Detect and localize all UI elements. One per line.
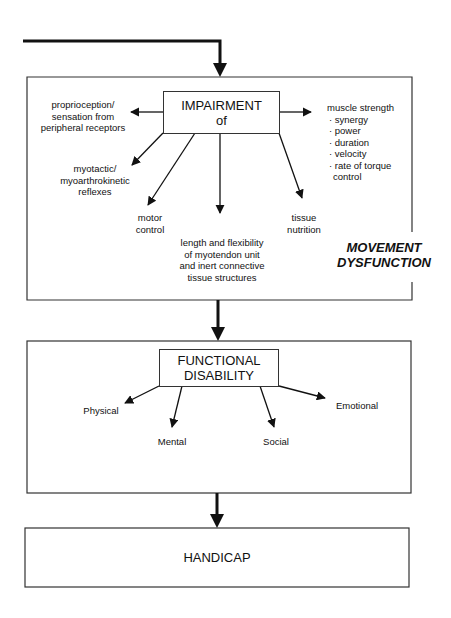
label-line: peripheral receptors xyxy=(34,122,132,134)
label-muscle-strength: muscle strength · synergy · power · dura… xyxy=(327,102,412,183)
muscle-strength-item: · rate of torque xyxy=(327,160,412,172)
label-line: proprioception/ xyxy=(34,99,132,111)
impairment-box: IMPAIRMENT of xyxy=(163,91,280,134)
label-line: DYSFUNCTION xyxy=(332,255,436,270)
label-mental: Mental xyxy=(152,436,192,448)
label-emotional: Emotional xyxy=(332,400,382,412)
label-line: control xyxy=(130,224,170,236)
label-tissue-nutrition: tissue nutrition xyxy=(284,212,324,235)
label-line: tissue structures xyxy=(175,272,269,284)
muscle-strength-item: · velocity xyxy=(327,148,412,160)
label-social: Social xyxy=(256,436,296,448)
label-line: MOVEMENT xyxy=(332,240,436,255)
label-reflexes: myotactic/ myoarthrokinetic reflexes xyxy=(55,163,135,198)
flow-arrow-to-handicap xyxy=(210,493,224,528)
incoming-flow-arrow xyxy=(23,41,227,77)
impairment-subtitle: of xyxy=(164,113,279,128)
functional-disability-box: FUNCTIONAL DISABILITY xyxy=(159,349,279,387)
label-length-flexibility: length and flexibility of myotendon unit… xyxy=(175,237,269,283)
functional-subtitle: DISABILITY xyxy=(160,368,278,383)
label-line: myotactic/ xyxy=(55,163,135,175)
label-proprioception: proprioception/ sensation from periphera… xyxy=(34,99,132,134)
label-line: and inert connective xyxy=(175,260,269,272)
muscle-strength-item: · duration xyxy=(327,137,412,149)
label-line: tissue xyxy=(284,212,324,224)
functional-arrows xyxy=(125,386,325,427)
label-line: nutrition xyxy=(284,224,324,236)
muscle-strength-item: control xyxy=(327,171,412,183)
impairment-title: IMPAIRMENT xyxy=(164,98,279,113)
label-physical: Physical xyxy=(79,405,123,417)
label-line: motor xyxy=(130,212,170,224)
label-line: sensation from xyxy=(34,111,132,123)
label-line: of myotendon unit xyxy=(175,249,269,261)
muscle-strength-item: · power xyxy=(327,125,412,137)
label-line: myoarthrokinetic xyxy=(55,175,135,187)
muscle-strength-title: muscle strength xyxy=(327,102,412,114)
flow-arrow-to-functional xyxy=(211,300,225,341)
label-line: length and flexibility xyxy=(175,237,269,249)
functional-title: FUNCTIONAL xyxy=(160,353,278,368)
label-line: reflexes xyxy=(55,186,135,198)
movement-dysfunction-label: MOVEMENT DYSFUNCTION xyxy=(332,240,436,270)
label-motor-control: motor control xyxy=(130,212,170,235)
handicap-label: HANDICAP xyxy=(25,550,409,565)
muscle-strength-item: · synergy xyxy=(327,114,412,126)
